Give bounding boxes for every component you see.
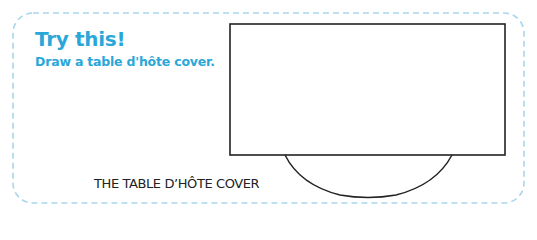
cover-semicircle bbox=[285, 155, 452, 198]
table-rectangle bbox=[230, 24, 505, 155]
box-heading: Try this! bbox=[35, 27, 125, 51]
diagram-caption: THE TABLE D’HÔTE COVER bbox=[94, 176, 259, 191]
box-instruction: Draw a table d'hôte cover. bbox=[35, 54, 215, 69]
